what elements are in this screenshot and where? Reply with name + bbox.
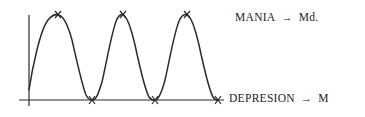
peak-markers	[55, 11, 190, 18]
mania-result: Md.	[299, 11, 319, 23]
depression-state: DEPRESION	[229, 92, 295, 104]
mania-state: MANIA	[235, 11, 275, 23]
arrow-right-icon: →	[281, 11, 292, 23]
mania-label: MANIA→Md.	[235, 11, 319, 23]
arrow-right-icon: →	[301, 92, 312, 104]
depression-label: DEPRESION→M	[229, 92, 329, 104]
depression-result: M	[318, 92, 329, 104]
mood-wave-curve	[29, 14, 218, 100]
